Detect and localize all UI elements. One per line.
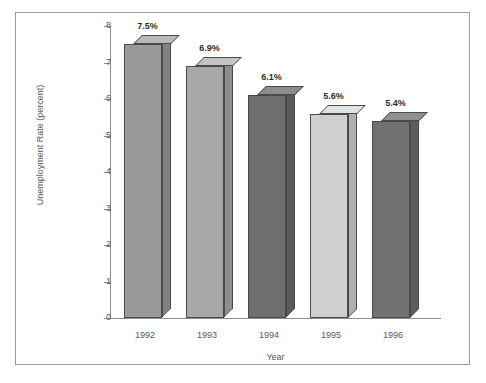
bar	[372, 112, 419, 318]
bar-value-label: 5.6%	[306, 91, 362, 101]
bar-front-face	[124, 44, 162, 318]
bar-side-face	[162, 35, 171, 318]
x-axis-title: Year	[110, 352, 441, 362]
y-axis-tick-label: 5	[82, 131, 111, 140]
y-axis-tick-label-text: 5	[95, 131, 111, 140]
y-axis-tick-label: 8	[82, 21, 111, 30]
bar-top-face	[319, 105, 366, 114]
x-axis-tick-label: 1996	[362, 330, 424, 340]
bar-top-face	[257, 86, 304, 95]
x-axis-line	[110, 318, 441, 319]
y-axis-tick-label-text: 8	[95, 21, 111, 30]
y-axis-tick-label-text: 1	[95, 277, 111, 286]
y-axis-tick-label: 7	[82, 58, 111, 67]
y-axis-tick-label-text: 4	[95, 167, 111, 176]
bar-front-face	[310, 114, 348, 318]
bar-value-label: 5.4%	[368, 98, 424, 108]
bar-side-face	[286, 86, 295, 318]
bar	[124, 35, 171, 318]
x-axis-tick-label: 1992	[114, 330, 176, 340]
bar-side-face	[410, 112, 419, 318]
bar-front-face	[186, 66, 224, 318]
y-axis-tick-label-text: 0	[95, 313, 111, 322]
figure: 012345678 Unemployment Rate (percent) 7.…	[0, 0, 486, 383]
bar-front-face	[372, 121, 410, 318]
x-axis-tick-label: 1993	[176, 330, 238, 340]
y-axis-tick-label: 3	[82, 204, 111, 213]
bar-value-label: 6.1%	[244, 72, 300, 82]
y-axis-tick-label: 0	[82, 313, 111, 322]
bar-top-face	[133, 35, 180, 44]
bar-side-face	[224, 57, 233, 318]
y-axis-tick-label: 2	[82, 240, 111, 249]
bar-top-face	[381, 112, 428, 121]
bar-value-label: 7.5%	[120, 21, 176, 31]
bar	[186, 57, 233, 318]
x-axis-tick-label: 1995	[300, 330, 362, 340]
y-axis-tick-label: 6	[82, 94, 111, 103]
x-axis-tick-label: 1994	[238, 330, 300, 340]
y-axis-title: Unemployment Rate (percent)	[35, 65, 45, 225]
y-axis-tick-label: 4	[82, 167, 111, 176]
bar-side-face	[348, 105, 357, 318]
y-axis-tick-label: 1	[82, 277, 111, 286]
bar	[310, 105, 357, 318]
bar-top-face	[195, 57, 242, 66]
bar-chart-plot: 012345678 Unemployment Rate (percent) 7.…	[0, 0, 486, 383]
bar-front-face	[248, 95, 286, 318]
y-axis-tick-label-text: 7	[95, 58, 111, 67]
y-axis-tick-label-text: 2	[95, 240, 111, 249]
bar-value-label: 6.9%	[182, 43, 238, 53]
y-axis-tick-label-text: 3	[95, 204, 111, 213]
y-axis-tick-label-text: 6	[95, 94, 111, 103]
bar	[248, 86, 295, 318]
